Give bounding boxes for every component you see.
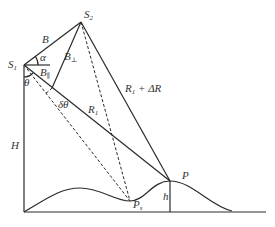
label-B: B — [42, 33, 49, 45]
delta-theta-arc — [46, 88, 52, 93]
label-h: h — [163, 190, 169, 202]
label-S2: S2 — [84, 8, 94, 22]
terrain-curve — [24, 181, 232, 212]
dashed-S1-to-Ps — [24, 65, 130, 201]
label-B-perp: B⊥ — [64, 50, 77, 64]
alpha-arc — [35, 56, 38, 65]
label-R1: R1 — [87, 103, 98, 117]
insar-geometry-diagram: S1 S2 B α B⊥ B∥ θ δθ R1 R1 + ΔR H h P Ps — [0, 0, 275, 227]
label-alpha: α — [40, 51, 46, 63]
label-P: P — [181, 169, 189, 181]
label-Ps: Ps — [132, 198, 143, 212]
range-R1-plus-dR-line — [81, 22, 170, 181]
label-B-parallel: B∥ — [40, 66, 50, 80]
diagram-svg: S1 S2 B α B⊥ B∥ θ δθ R1 R1 + ΔR H h P Ps — [0, 0, 275, 227]
label-S1: S1 — [8, 58, 17, 72]
label-H: H — [10, 139, 20, 151]
label-theta: θ — [24, 76, 30, 88]
label-delta-theta: δθ — [58, 98, 69, 110]
label-R1-plus-dR: R1 + ΔR — [124, 82, 162, 96]
